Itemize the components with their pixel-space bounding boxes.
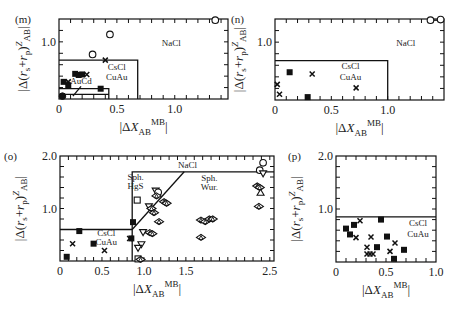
data-point-filled-circle	[59, 93, 66, 100]
y-tick-label: 2.0	[318, 149, 333, 163]
plot-frame	[336, 156, 436, 262]
data-point-square	[128, 235, 134, 241]
data-point-circle	[89, 51, 96, 58]
y-tick-label: 1.0	[257, 35, 272, 49]
region-label: CsCl	[341, 61, 360, 71]
data-point-square	[391, 256, 397, 262]
data-point-square	[343, 226, 349, 232]
region-label: NaCl	[178, 160, 197, 170]
x-tick-label: 1.0	[429, 265, 444, 279]
data-point-square	[287, 69, 293, 75]
x-tick-label: 1.5	[178, 264, 193, 278]
data-point-cross	[358, 218, 363, 223]
data-point-cross	[369, 235, 374, 240]
y-axis-title: |Δ(rs+rp)ZAB|	[287, 176, 305, 241]
data-point-square	[130, 219, 136, 225]
region-label: Wur.	[201, 182, 218, 192]
data-point-cross	[102, 248, 107, 253]
data-point-square	[98, 86, 104, 92]
x-tick-label: 0	[56, 102, 62, 116]
region-label: CsCl	[409, 218, 428, 228]
panel-p: 00.51.02.01.0(p)|ΔXABMB||Δ(rs+rp)ZAB|CsC…	[287, 149, 444, 300]
x-tick-label: 1.0	[136, 264, 151, 278]
data-point-square	[347, 231, 353, 237]
data-point-triangle-up	[257, 189, 264, 195]
phase-boundary	[275, 61, 388, 100]
x-tick-label: 0	[272, 103, 278, 117]
data-point-cross	[371, 252, 376, 257]
phase-map-figure: 00.51.01.0(m)|ΔXABMB||Δ(rs+rp)ZAB|NaClCs…	[0, 0, 465, 311]
data-point-square	[76, 228, 82, 234]
x-axis-title: |ΔXABMB|	[119, 117, 167, 137]
y-tick-label: 2.0	[42, 149, 57, 163]
data-point-square	[91, 241, 97, 247]
data-point-cross	[354, 235, 359, 240]
region-label: HgS	[128, 181, 144, 191]
data-point-cross	[393, 240, 398, 245]
x-axis-title: |ΔXABMB|	[335, 118, 383, 138]
plot-frame	[275, 19, 444, 100]
x-tick-label: 1.0	[167, 102, 182, 116]
x-tick-label: 0.5	[109, 102, 124, 116]
panel-label: (m)	[15, 13, 31, 26]
x-axis-title: |ΔXABMB|	[362, 280, 410, 300]
data-point-cross	[354, 85, 359, 90]
data-point-cross	[365, 245, 370, 250]
data-point-square	[384, 234, 390, 240]
data-point-square	[351, 222, 357, 228]
data-point-cross	[70, 241, 75, 246]
region-label: CuAu	[106, 72, 128, 82]
plot-frame	[59, 19, 228, 99]
data-point-square	[65, 82, 71, 88]
data-point-square	[378, 217, 384, 223]
region-label: CuAu	[95, 237, 117, 247]
data-point-circle	[260, 160, 267, 167]
data-point-triangle-down	[135, 245, 142, 251]
data-point-circle	[212, 17, 219, 24]
y-tick-label: 1.0	[42, 202, 57, 216]
x-tick-label: 0	[333, 265, 339, 279]
region-label: NaCl	[162, 38, 181, 48]
data-point-circle	[437, 16, 444, 23]
y-tick-label: 1.0	[318, 202, 333, 216]
data-point-circle	[107, 31, 114, 38]
panel-label: (n)	[231, 13, 244, 26]
panel-n: 00.51.01.0(n)|ΔXABMB||Δ(rs+rp)ZAB|NaClCs…	[230, 13, 444, 138]
data-point-open-square	[134, 197, 140, 203]
x-tick-label: 2.5	[262, 264, 277, 278]
x-tick-label: 0	[57, 264, 63, 278]
region-label: NaCl	[396, 38, 415, 48]
data-point-cross	[388, 249, 393, 254]
y-tick-label: 1.0	[41, 35, 56, 49]
x-tick-label: 0.5	[94, 264, 109, 278]
data-point-cross	[277, 92, 282, 97]
data-point-square	[305, 94, 311, 100]
panel-m: 00.51.01.0(m)|ΔXABMB||Δ(rs+rp)ZAB|NaClCs…	[14, 13, 228, 137]
y-axis-title: |Δ(rs+rp)ZAB|	[11, 176, 29, 241]
data-point-cross	[310, 71, 315, 76]
data-point-square	[64, 254, 70, 260]
y-axis-title: |Δ(rs+rp)ZAB|	[230, 27, 248, 92]
panel-label: (p)	[288, 150, 301, 163]
y-axis-title: |Δ(rs+rp)ZAB|	[14, 26, 32, 91]
x-axis-title: |ΔXABMB|	[133, 279, 181, 299]
x-tick-label: 0.5	[379, 265, 394, 279]
region-label: CuAu	[407, 229, 429, 239]
data-point-square	[401, 247, 407, 253]
panel-o: 00.51.01.52.52.01.0(o)|ΔXABMB||Δ(rs+rp)Z…	[4, 149, 277, 299]
data-point-square	[374, 244, 380, 250]
panel-label: (o)	[4, 150, 17, 163]
region-label: CuAu	[340, 72, 362, 82]
data-point-circle	[427, 17, 434, 24]
x-tick-label: 0.5	[324, 103, 339, 117]
x-tick-label: 1.0	[380, 103, 395, 117]
